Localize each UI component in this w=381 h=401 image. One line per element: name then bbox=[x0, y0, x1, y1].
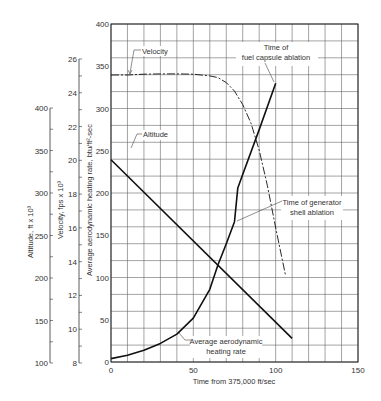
svg-text:0: 0 bbox=[109, 366, 114, 375]
annotation-heating-rate: Average aerodynamic heating rate bbox=[179, 333, 263, 358]
svg-text:22: 22 bbox=[68, 123, 77, 132]
svg-text:26: 26 bbox=[68, 55, 77, 64]
svg-text:10: 10 bbox=[68, 325, 77, 334]
svg-text:150: 150 bbox=[351, 366, 365, 375]
svg-text:200: 200 bbox=[96, 189, 110, 198]
svg-text:300: 300 bbox=[96, 105, 110, 114]
svg-text:100: 100 bbox=[269, 366, 283, 375]
svg-text:150: 150 bbox=[96, 231, 110, 240]
svg-text:12: 12 bbox=[68, 291, 77, 300]
svg-text:50: 50 bbox=[100, 316, 109, 325]
svg-text:200: 200 bbox=[35, 274, 49, 283]
svg-text:100: 100 bbox=[96, 274, 110, 283]
svg-text:0: 0 bbox=[105, 358, 110, 367]
svg-text:Altitude: Altitude bbox=[143, 130, 168, 139]
svg-text:150: 150 bbox=[35, 317, 49, 326]
svg-text:shell ablation: shell ablation bbox=[290, 208, 334, 217]
svg-text:24: 24 bbox=[68, 89, 77, 98]
svg-text:8: 8 bbox=[73, 359, 78, 368]
annotation-velocity: Velocity bbox=[128, 46, 173, 74]
svg-text:heating rate: heating rate bbox=[206, 347, 246, 356]
svg-text:350: 350 bbox=[96, 62, 110, 71]
svg-text:400: 400 bbox=[96, 20, 110, 29]
heating-axis-label: Average aerodynamic heating rate, btu/ft… bbox=[85, 124, 94, 276]
velocity-axis-label: Velocity, fps x 10³ bbox=[56, 180, 65, 239]
svg-text:400: 400 bbox=[35, 104, 49, 113]
svg-text:Velocity: Velocity bbox=[142, 47, 168, 56]
svg-text:18: 18 bbox=[68, 190, 77, 199]
svg-text:350: 350 bbox=[35, 147, 49, 156]
svg-text:100: 100 bbox=[35, 359, 49, 368]
altitude-axis-label: Altitude, ft x 10³ bbox=[26, 205, 35, 258]
svg-text:Time of generator: Time of generator bbox=[283, 198, 342, 207]
svg-text:50: 50 bbox=[189, 366, 198, 375]
svg-text:20: 20 bbox=[68, 156, 77, 165]
svg-text:300: 300 bbox=[35, 189, 49, 198]
svg-text:250: 250 bbox=[96, 147, 110, 156]
annotation-generator-shell: Time of generator shell ablation bbox=[237, 196, 343, 221]
svg-text:Time of: Time of bbox=[264, 43, 290, 52]
x-axis-label: Time from 375,000 ft/sec bbox=[193, 377, 276, 386]
annotation-altitude: Altitude bbox=[131, 130, 172, 148]
svg-text:16: 16 bbox=[68, 224, 77, 233]
svg-text:Average aerodynamic: Average aerodynamic bbox=[190, 337, 263, 346]
svg-text:14: 14 bbox=[68, 258, 77, 267]
svg-text:250: 250 bbox=[35, 232, 49, 241]
data-series bbox=[111, 74, 292, 359]
plot-grid bbox=[111, 24, 358, 362]
chart-container: 0501001500501001502002503003504008101214… bbox=[0, 0, 381, 401]
annotation-fuel-capsule: Time of fuel capsule ablation bbox=[236, 42, 318, 82]
svg-text:fuel capsule ablation: fuel capsule ablation bbox=[242, 53, 310, 62]
series-altitude bbox=[111, 160, 292, 339]
